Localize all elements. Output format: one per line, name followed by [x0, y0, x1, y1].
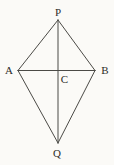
vertex-label-p: P — [55, 6, 61, 18]
vertex-label-c: C — [61, 73, 68, 85]
edge-pb — [58, 20, 95, 71]
scanned-diagram-page: P A B C Q — [0, 0, 114, 165]
edge-aq — [18, 71, 58, 144]
vertex-label-a: A — [5, 64, 13, 76]
edge-pa — [18, 20, 58, 71]
kite-diagram: P A B C Q — [0, 0, 114, 165]
vertex-label-q: Q — [53, 147, 61, 159]
vertex-label-b: B — [101, 64, 108, 76]
